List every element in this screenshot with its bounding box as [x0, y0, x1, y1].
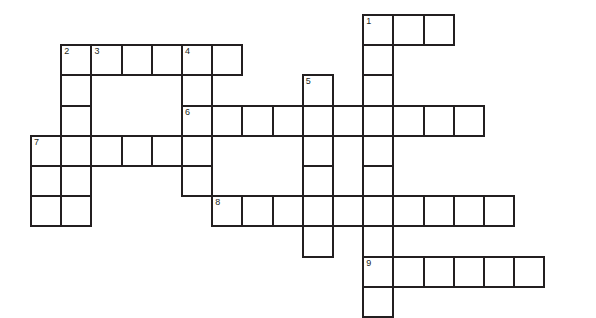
crossword-cell[interactable]	[60, 135, 92, 167]
crossword-cell[interactable]	[392, 14, 424, 46]
crossword-clue-number: 7	[34, 137, 39, 147]
crossword-cell[interactable]	[272, 105, 304, 137]
crossword-cell[interactable]	[241, 195, 273, 227]
crossword-clue-number: 9	[366, 258, 371, 268]
crossword-cell[interactable]	[362, 135, 394, 167]
crossword-clue-number: 2	[64, 46, 69, 56]
crossword-cell-start-6[interactable]: 6	[181, 105, 213, 137]
crossword-cell-start-7[interactable]: 7	[30, 135, 62, 167]
crossword-cell[interactable]	[211, 105, 243, 137]
crossword-cell[interactable]	[423, 256, 455, 288]
crossword-cell[interactable]	[453, 256, 485, 288]
crossword-cell[interactable]	[392, 195, 424, 227]
crossword-cell-start-3[interactable]: 3	[90, 44, 122, 76]
crossword-cell[interactable]	[423, 14, 455, 46]
crossword-cell[interactable]	[60, 105, 92, 137]
crossword-cell[interactable]	[272, 195, 304, 227]
crossword-cell[interactable]	[423, 105, 455, 137]
crossword-cell[interactable]	[483, 195, 515, 227]
crossword-cell-start-8[interactable]: 8	[211, 195, 243, 227]
crossword-cell[interactable]	[483, 256, 515, 288]
crossword-cell[interactable]	[302, 225, 334, 257]
crossword-cell[interactable]	[211, 44, 243, 76]
crossword-cell[interactable]	[60, 165, 92, 197]
crossword-cell[interactable]	[302, 105, 334, 137]
crossword-cell[interactable]	[121, 44, 153, 76]
crossword-cell[interactable]	[362, 165, 394, 197]
crossword-cell[interactable]	[362, 44, 394, 76]
crossword-cell[interactable]	[302, 195, 334, 227]
crossword-cell[interactable]	[181, 165, 213, 197]
crossword-cell[interactable]	[513, 256, 545, 288]
crossword-cell[interactable]	[90, 135, 122, 167]
crossword-cell[interactable]	[302, 135, 334, 167]
crossword-cell[interactable]	[332, 195, 364, 227]
crossword-cell[interactable]	[30, 165, 62, 197]
crossword-cell[interactable]	[30, 195, 62, 227]
crossword-cell[interactable]	[60, 74, 92, 106]
crossword-clue-number: 8	[215, 197, 220, 207]
crossword-cell[interactable]	[181, 135, 213, 167]
crossword-cell-start-1[interactable]: 1	[362, 14, 394, 46]
crossword-cell[interactable]	[302, 165, 334, 197]
crossword-cell[interactable]	[362, 105, 394, 137]
crossword-cell[interactable]	[121, 135, 153, 167]
crossword-clue-number: 5	[306, 76, 311, 86]
crossword-cell[interactable]	[362, 195, 394, 227]
crossword-clue-number: 4	[185, 46, 190, 56]
crossword-cell[interactable]	[151, 135, 183, 167]
crossword-clue-number: 3	[94, 46, 99, 56]
crossword-cell[interactable]	[60, 195, 92, 227]
crossword-cell[interactable]	[453, 105, 485, 137]
crossword-cell[interactable]	[423, 195, 455, 227]
crossword-cell[interactable]	[362, 74, 394, 106]
crossword-cell[interactable]	[362, 286, 394, 318]
crossword-cell[interactable]	[181, 74, 213, 106]
crossword-cell[interactable]	[151, 44, 183, 76]
crossword-clue-number: 1	[366, 16, 371, 26]
crossword-cell-start-5[interactable]: 5	[302, 74, 334, 106]
crossword-cell[interactable]	[241, 105, 273, 137]
crossword-cell-start-9[interactable]: 9	[362, 256, 394, 288]
crossword-cell[interactable]	[362, 225, 394, 257]
crossword-cell-start-4[interactable]: 4	[181, 44, 213, 76]
crossword-clue-number: 6	[185, 107, 190, 117]
crossword-cell[interactable]	[392, 105, 424, 137]
crossword-cell-start-2[interactable]: 2	[60, 44, 92, 76]
crossword-cell[interactable]	[392, 256, 424, 288]
crossword-cell[interactable]	[453, 195, 485, 227]
crossword-cell[interactable]	[332, 105, 364, 137]
